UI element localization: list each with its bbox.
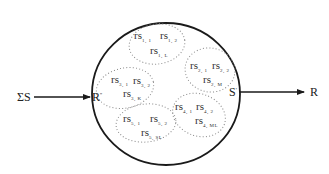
exit-node-letter: S xyxy=(229,85,236,99)
cluster-3-item-3: rs3, K xyxy=(123,88,142,101)
diagram-canvas xyxy=(0,0,329,174)
input-label: ΣS xyxy=(17,91,31,103)
cluster-4-item-1: rs4, 1 xyxy=(175,101,192,114)
entry-node-label: R'' xyxy=(92,91,102,103)
cluster-5-item-2: rs5, 2 xyxy=(150,113,167,126)
output-label: R xyxy=(310,86,318,98)
cluster-4-item-2: rs4, 2 xyxy=(196,101,213,114)
cluster-4-item-3: rs4, ML xyxy=(195,115,218,128)
entry-node-mark: '' xyxy=(100,92,102,98)
cluster-1-item-3: rs1, L xyxy=(150,45,168,58)
exit-node-mark: ' xyxy=(236,87,237,93)
cluster-2-item-2: rs2, 2 xyxy=(212,60,229,73)
cluster-2-item-1: rs2, 1 xyxy=(190,60,207,73)
entry-node-letter: R xyxy=(92,90,100,104)
cluster-1-item-1: rs1, 1 xyxy=(134,30,151,43)
cluster-3-item-1: rs3, 1 xyxy=(111,74,128,87)
cluster-5-item-3: rs5, SL xyxy=(141,127,162,140)
cluster-1-item-2: rs1, 2 xyxy=(160,30,177,43)
cluster-5-item-1: rs5, 1 xyxy=(123,113,140,126)
exit-node-label: S' xyxy=(229,86,237,98)
cluster-2-item-3: rs2, M xyxy=(203,74,222,87)
cluster-3-item-2: rs3, 2 xyxy=(133,75,150,88)
